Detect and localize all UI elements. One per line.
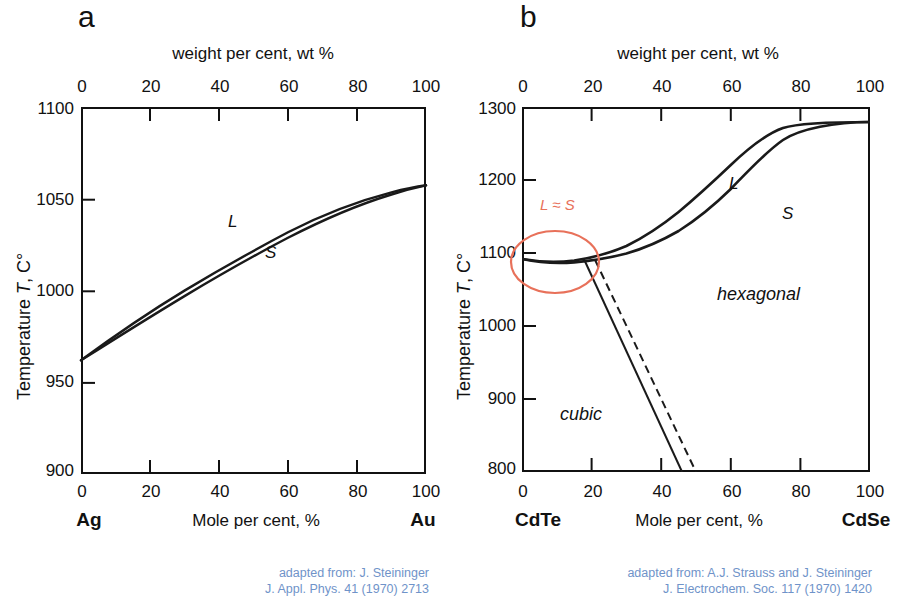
panel-a-bottom-axis-title: Mole per cent, %: [192, 511, 320, 531]
panel-b-bottom-ticks: [592, 458, 801, 472]
panel-b-congruent-annotation: L ≈ S: [540, 196, 575, 213]
panel-b-cubic-boundary-dashed: [595, 260, 696, 472]
panel-a-citation: adapted from: J. Steininger J. Appl. Phy…: [265, 565, 429, 597]
panel-b-citation-line2: J. Electrochem. Soc. 117 (1970) 1420: [627, 581, 872, 597]
panel-b-cubic-boundary-solid: [585, 261, 683, 473]
panel-b-citation-line1: adapted from: A.J. Strauss and J. Steini…: [627, 565, 872, 581]
panel-a-bottom-tick-60: 60: [280, 482, 299, 502]
panel-b-region-hexagonal-label: hexagonal: [717, 284, 800, 305]
panel-a-liquidus-curve: [81, 185, 426, 360]
panel-a-top-ticks: [150, 107, 357, 121]
panel-b-right-endmember: CdSe: [842, 509, 891, 531]
panel-a: a weight per cent, wt % 0 20 40 60 80 10…: [0, 0, 455, 610]
panel-b-bottom-tick-40: 40: [653, 482, 672, 502]
panel-a-solidus-curve: [81, 185, 426, 360]
panel-a-liquidus-label: L: [228, 212, 237, 232]
panel-a-citation-line2: J. Appl. Phys. 41 (1970) 2713: [265, 581, 429, 597]
panel-b-bottom-axis-title: Mole per cent, %: [635, 511, 763, 531]
panel-a-left-endmember: Ag: [76, 509, 101, 531]
panel-a-solidus-label: S: [265, 243, 276, 263]
panel-a-bottom-ticks: [150, 460, 357, 474]
panel-a-bottom-tick-100: 100: [412, 482, 440, 502]
panel-a-bottom-tick-80: 80: [349, 482, 368, 502]
panel-b-liquidus-curve: [522, 122, 870, 262]
panel-a-bottom-tick-40: 40: [211, 482, 230, 502]
panel-a-citation-line1: adapted from: J. Steininger: [265, 565, 429, 581]
panel-b: b weight per cent, wt % 0 20 40 60 80 10…: [452, 0, 907, 610]
panel-b-bottom-tick-80: 80: [792, 482, 811, 502]
panel-a-bottom-tick-0: 0: [77, 482, 86, 502]
panel-b-citation: adapted from: A.J. Strauss and J. Steini…: [627, 565, 872, 597]
panel-a-bottom-tick-20: 20: [142, 482, 161, 502]
panel-b-region-cubic-label: cubic: [560, 404, 602, 425]
panel-b-left-endmember: CdTe: [515, 509, 561, 531]
panel-b-solidus-label: S: [782, 204, 793, 224]
panel-b-solidus-curve: [522, 122, 870, 263]
panel-b-bottom-tick-20: 20: [584, 482, 603, 502]
panel-b-bottom-tick-100: 100: [856, 482, 884, 502]
panel-b-bottom-tick-60: 60: [723, 482, 742, 502]
panel-b-liquidus-label: L: [729, 174, 738, 194]
panel-a-right-endmember: Au: [410, 509, 435, 531]
panel-b-bottom-tick-0: 0: [518, 482, 527, 502]
panel-b-top-ticks: [592, 107, 801, 121]
